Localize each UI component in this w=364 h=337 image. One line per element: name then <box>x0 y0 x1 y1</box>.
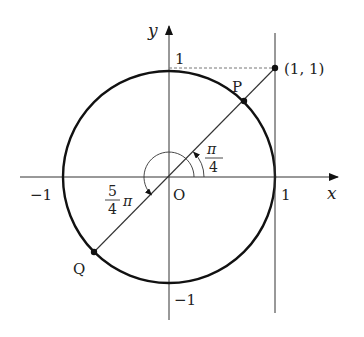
tick-x-pos: 1 <box>281 186 291 204</box>
point-1-1-label: (1, 1) <box>284 60 324 78</box>
x-axis-label: x <box>327 183 337 203</box>
svg-text:5: 5 <box>108 183 117 199</box>
point-Q-label: Q <box>73 260 85 278</box>
point-P <box>241 98 247 104</box>
unit-circle-diagram: y x O 1 −1 1 −1 P Q (1, 1) π 4 5 4 π <box>0 0 364 337</box>
tick-x-neg: −1 <box>30 186 52 204</box>
svg-text:4: 4 <box>209 159 218 175</box>
angle-arc-pi-over-4 <box>194 152 204 177</box>
point-Q <box>91 249 97 255</box>
svg-text:π: π <box>206 141 217 157</box>
diagonal-line <box>94 68 275 252</box>
tick-y-neg: −1 <box>174 291 196 309</box>
tick-y-pos: 1 <box>175 50 185 68</box>
angle-label-pi-over-4: π 4 <box>205 141 223 175</box>
angle-label-5pi-over-4: 5 4 π <box>105 183 133 217</box>
point-1-1 <box>272 65 278 71</box>
svg-text:π: π <box>122 193 133 209</box>
point-P-label: P <box>232 78 242 96</box>
origin-label: O <box>173 186 185 204</box>
svg-text:4: 4 <box>108 201 117 217</box>
y-axis-label: y <box>147 20 158 40</box>
